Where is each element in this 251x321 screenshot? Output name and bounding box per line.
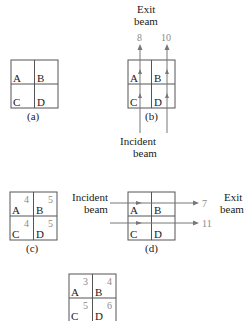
cell-a-value: 4 [24, 194, 29, 205]
incident-beam-label-top: Incident [72, 191, 108, 203]
cell-b-label: B [154, 204, 161, 216]
incident-beam-label-bottom: beam [133, 147, 157, 159]
cell-c-label: C [130, 96, 137, 108]
caption-d: (d) [145, 242, 158, 255]
arrow-up-icon [138, 69, 142, 74]
arrow-right-icon [193, 201, 199, 206]
sum-column-2: 10 [161, 32, 171, 43]
arrow-up-icon [138, 44, 143, 50]
incident-beam-label-bottom: beam [84, 203, 108, 215]
exit-beam-label-top: Exit [224, 191, 242, 203]
cell-d-label: D [154, 228, 162, 240]
panel-e: 3 4 5 6 A B C D [69, 274, 116, 321]
exit-beam-label-bottom: beam [220, 203, 244, 215]
cell-c-value: 5 [83, 300, 88, 311]
cell-b-label: B [37, 72, 44, 84]
cell-a-label: A [13, 72, 21, 84]
sum-row-2: 11 [202, 218, 212, 229]
cell-d-label: D [36, 228, 44, 240]
cell-c-value: 4 [24, 218, 29, 229]
cell-a-label: A [130, 204, 138, 216]
caption-a: (a) [27, 110, 40, 123]
incident-beam-label-top: Incident [120, 135, 156, 147]
cell-d-label: D [95, 310, 103, 321]
cell-c-label: C [13, 96, 20, 108]
cell-c-label: C [71, 310, 78, 321]
arrow-up-icon [165, 93, 169, 98]
panel-c: 4 5 4 5 A B C D (c) [10, 192, 57, 255]
cell-b-value: 5 [48, 194, 53, 205]
cell-b-label: B [36, 204, 43, 216]
exit-beam-label-top: Exit [137, 3, 155, 15]
panel-b: Exit beam 8 10 A B C D (b) Incident beam [120, 3, 175, 159]
cell-b-label: B [95, 286, 102, 298]
arrow-right-icon [193, 221, 199, 226]
cell-d-label: D [154, 96, 162, 108]
arrow-up-icon [165, 69, 169, 74]
caption-b: (b) [145, 110, 158, 123]
cell-b-label: B [154, 72, 161, 84]
cell-a-label: A [71, 286, 79, 298]
cell-a-value: 3 [83, 276, 88, 287]
cell-d-label: D [37, 96, 45, 108]
cell-a-label: A [12, 204, 20, 216]
tomography-diagram: A B C D (a) Exit beam 8 10 A B C D (b) I… [0, 0, 251, 321]
cell-c-label: C [130, 228, 137, 240]
exit-beam-label-bottom: beam [134, 15, 158, 27]
arrow-right-icon [136, 221, 142, 225]
panel-a: A B C D (a) [11, 60, 58, 123]
arrow-up-icon [138, 93, 142, 98]
sum-column-1: 8 [137, 32, 142, 43]
cell-b-value: 4 [107, 276, 112, 287]
cell-c-label: C [12, 228, 19, 240]
cell-d-value: 5 [48, 218, 53, 229]
sum-row-1: 7 [202, 198, 207, 209]
caption-c: (c) [26, 242, 39, 255]
panel-d: Incident beam 7 11 A B C D (d) Exit beam [72, 191, 244, 255]
cell-a-label: A [130, 72, 138, 84]
cell-d-value: 6 [107, 300, 112, 311]
arrow-up-icon [165, 44, 170, 50]
